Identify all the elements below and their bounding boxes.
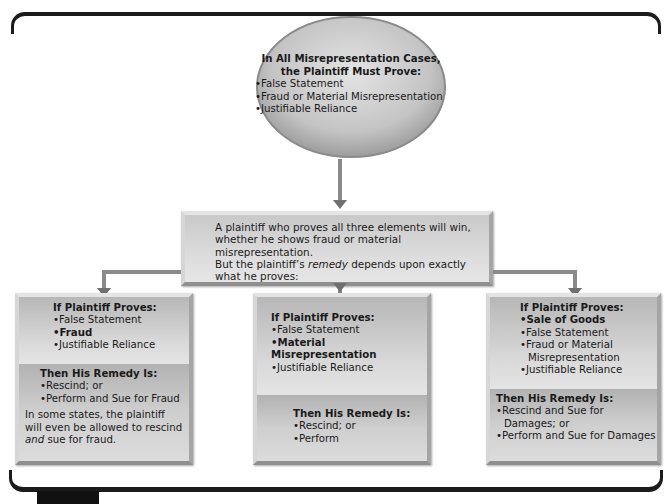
list-item: False Statement: [271, 324, 427, 336]
fraud-box: If Plaintiff Proves: False Statement Fra…: [15, 293, 193, 465]
proves-list: False Statement Material Misrepresentati…: [271, 324, 427, 374]
list-item: Perform: [293, 433, 427, 445]
list-item: Perform and Sue for Fraud: [40, 393, 189, 405]
list-item: Rescind and Sue for: [496, 405, 657, 417]
page-frame-bottom: [9, 470, 663, 492]
list-item: Fraud or Material: [520, 339, 657, 351]
list-item: False Statement: [255, 78, 447, 91]
proves-heading: If Plaintiff Proves:: [53, 302, 189, 314]
requirements-ellipse: In All Misrepresentation Cases, the Plai…: [255, 13, 447, 161]
list-item: Rescind; or: [40, 380, 189, 392]
list-item: Justifiable Reliance: [255, 103, 447, 116]
connector-line: [338, 159, 342, 202]
remedy-section: Then His Remedy Is: Rescind; or Perform …: [19, 364, 189, 461]
remedy-list: Rescind; or Perform and Sue for Fraud: [40, 380, 189, 405]
list-item: Material Misrepresentation: [271, 337, 427, 362]
remedy-section: Then His Remedy Is: Rescind; or Perform: [257, 395, 427, 461]
remedy-heading: Then His Remedy Is:: [40, 368, 189, 380]
list-item: Fraud: [53, 327, 189, 339]
proves-heading: If Plaintiff Proves:: [520, 302, 657, 314]
arrow-down-icon: [333, 283, 347, 292]
summary-line2: whether he shows fraud or material misre…: [215, 233, 485, 258]
remedy-section: Then His Remedy Is: Rescind and Sue for …: [490, 389, 657, 461]
list-item: Rescind; or: [293, 420, 427, 432]
proves-list: Sale of Goods False Statement Fraud or M…: [520, 314, 657, 376]
list-item: Perform and Sue for Damages: [496, 430, 657, 442]
list-item: Justifiable Reliance: [53, 339, 189, 351]
connector-line: [102, 270, 181, 274]
remedy-list: Rescind; or Perform: [293, 420, 427, 445]
list-item: False Statement: [53, 314, 189, 326]
frame-tab: [37, 491, 99, 504]
remedy-note: In some states, the plaintiff will even …: [25, 409, 189, 446]
summary-line1: A plaintiff who proves all three element…: [215, 221, 485, 233]
summary-box: A plaintiff who proves all three element…: [181, 211, 493, 286]
remedy-heading: Then His Remedy Is:: [293, 408, 427, 420]
summary-line4: what he proves:: [215, 270, 485, 282]
sale-of-goods-box: If Plaintiff Proves: Sale of Goods False…: [486, 293, 661, 465]
material-misrepresentation-box: If Plaintiff Proves: False Statement Mat…: [253, 293, 431, 465]
list-item: Sale of Goods: [520, 314, 657, 326]
proves-list: False Statement Fraud Justifiable Relian…: [53, 314, 189, 351]
remedy-list: Rescind and Sue for Damages; or Perform …: [496, 405, 657, 442]
list-item: Justifiable Reliance: [520, 364, 657, 376]
connector-line: [493, 270, 577, 274]
proves-section: If Plaintiff Proves: Sale of Goods False…: [490, 297, 657, 389]
list-item: Justifiable Reliance: [271, 362, 427, 374]
list-item: Misrepresentation: [520, 352, 657, 364]
ellipse-title-line1: In All Misrepresentation Cases,: [255, 53, 447, 66]
remedy-heading: Then His Remedy Is:: [496, 393, 657, 405]
list-item: Fraud or Material Misrepresentation: [255, 91, 447, 104]
summary-line3: But the plaintiff’s remedy depends upon …: [215, 258, 485, 270]
proves-section: If Plaintiff Proves: False Statement Fra…: [19, 297, 189, 364]
requirements-list: False Statement Fraud or Material Misrep…: [255, 78, 447, 116]
list-item: False Statement: [520, 327, 657, 339]
arrow-down-icon: [333, 200, 347, 209]
proves-section: If Plaintiff Proves: False Statement Mat…: [257, 297, 427, 395]
ellipse-title-line2: the Plaintiff Must Prove:: [255, 66, 447, 79]
proves-heading: If Plaintiff Proves:: [271, 312, 427, 324]
list-item: Damages; or: [496, 418, 657, 430]
